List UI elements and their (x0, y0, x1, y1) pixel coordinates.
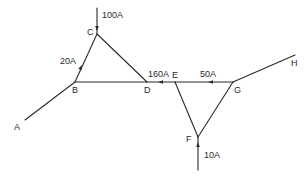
node-label-a: A (14, 122, 20, 132)
node-labels: ABCDEFGH (14, 27, 298, 144)
current-labels: 100A20A160A50A10A (60, 10, 220, 160)
branch-e-f (175, 82, 198, 137)
arrow-icon (78, 65, 82, 70)
arrow-icon (158, 80, 163, 84)
current-label-i-10: 10A (204, 150, 220, 160)
arrow-icon (196, 142, 200, 147)
arrow-icon (95, 26, 99, 31)
node-label-h: H (291, 58, 298, 68)
node-label-c: C (87, 27, 94, 37)
branch-a-b (25, 82, 75, 120)
branch-g-h (233, 55, 295, 82)
branches (25, 34, 295, 137)
node-label-g: G (234, 85, 241, 95)
arrow-icon (208, 80, 213, 84)
current-label-i-100: 100A (102, 10, 123, 20)
node-label-f: F (186, 134, 192, 144)
current-label-i-160: 160A (148, 69, 169, 79)
branch-f-g (198, 82, 233, 137)
current-label-i-50: 50A (200, 69, 216, 79)
node-label-b: B (72, 85, 78, 95)
branch-b-c (75, 34, 97, 82)
branch-c-d (97, 34, 147, 82)
circuit-diagram: ABCDEFGH 100A20A160A50A10A (0, 0, 308, 183)
node-label-e: E (172, 70, 178, 80)
current-label-i-20: 20A (60, 56, 76, 66)
node-label-d: D (144, 85, 151, 95)
